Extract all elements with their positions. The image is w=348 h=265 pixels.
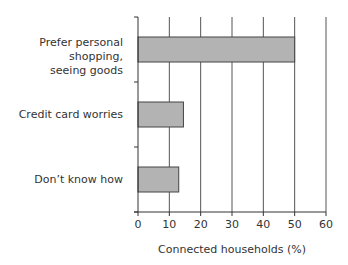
x-tick-label: 10 — [162, 218, 176, 231]
category-label: Credit card worries — [19, 108, 123, 122]
category-label: Prefer personal shopping,seeing goods — [0, 36, 123, 78]
bar — [138, 102, 183, 127]
x-tick-label: 30 — [225, 218, 239, 231]
x-tick-label: 20 — [194, 218, 208, 231]
bar — [138, 37, 295, 62]
x-tick-label: 60 — [319, 218, 333, 231]
bar — [138, 167, 179, 192]
x-tick-label: 50 — [288, 218, 302, 231]
category-label: Don’t know how — [34, 173, 123, 187]
x-axis-label: Connected households (%) — [138, 243, 326, 256]
x-tick-label: 0 — [135, 218, 142, 231]
x-tick-label: 40 — [256, 218, 270, 231]
